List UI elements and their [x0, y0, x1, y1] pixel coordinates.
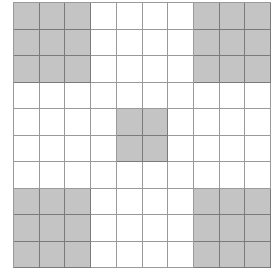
grid-cell: [168, 109, 194, 136]
grid-cell: [14, 83, 40, 110]
grid-cell: [91, 83, 117, 110]
grid-cell: [14, 109, 40, 136]
shaded-cell-top-left: [40, 3, 66, 30]
grid-cell: [194, 136, 220, 163]
shaded-cell-top-left: [40, 30, 66, 57]
grid-diagram: [13, 2, 271, 268]
grid-cell: [194, 109, 220, 136]
shaded-cell-bottom-left: [65, 215, 91, 242]
grid-cell: [143, 56, 169, 83]
grid-cell: [40, 83, 66, 110]
grid-cell: [65, 162, 91, 189]
grid-cell: [143, 215, 169, 242]
shaded-cell-top-right: [245, 3, 271, 30]
shaded-cell-top-right: [245, 56, 271, 83]
grid-cell: [117, 30, 143, 57]
grid-cell: [168, 215, 194, 242]
shaded-cell-top-left: [65, 3, 91, 30]
shaded-cell-bottom-right: [245, 242, 271, 269]
shaded-cell-top-left: [14, 56, 40, 83]
shaded-cell-top-left: [14, 30, 40, 57]
grid-cell: [14, 162, 40, 189]
shaded-cell-bottom-right: [194, 242, 220, 269]
grid-cell: [220, 136, 246, 163]
grid-cell: [143, 242, 169, 269]
shaded-cell-top-right: [245, 30, 271, 57]
grid-cell: [65, 83, 91, 110]
grid-cell: [220, 83, 246, 110]
grid-cell: [117, 56, 143, 83]
shaded-cell-bottom-right: [194, 215, 220, 242]
grid-cell: [143, 83, 169, 110]
grid-cell: [91, 30, 117, 57]
grid-cell: [143, 162, 169, 189]
grid-cell: [245, 109, 271, 136]
grid-cell: [168, 136, 194, 163]
grid-cell: [168, 189, 194, 216]
grid-cell: [91, 162, 117, 189]
shaded-cell-bottom-left: [40, 242, 66, 269]
shaded-cell-bottom-right: [194, 189, 220, 216]
grid-cell: [168, 242, 194, 269]
grid-cell: [65, 136, 91, 163]
grid-cell: [117, 162, 143, 189]
shaded-cell-top-left: [14, 3, 40, 30]
shaded-cell-top-left: [65, 56, 91, 83]
grid-cell: [143, 189, 169, 216]
grid-cell: [40, 136, 66, 163]
grid-cell: [117, 83, 143, 110]
shaded-cell-top-right: [220, 3, 246, 30]
shaded-cell-center: [117, 109, 143, 136]
grid-cell: [117, 242, 143, 269]
shaded-cell-bottom-left: [14, 189, 40, 216]
shaded-cell-top-right: [194, 30, 220, 57]
grid-cell: [168, 56, 194, 83]
shaded-cell-center: [143, 109, 169, 136]
grid-cell: [194, 162, 220, 189]
shaded-cell-top-left: [65, 30, 91, 57]
shaded-cell-bottom-right: [220, 189, 246, 216]
shaded-cell-bottom-right: [245, 215, 271, 242]
grid-cell: [91, 242, 117, 269]
grid-cell: [14, 136, 40, 163]
grid-cell: [91, 3, 117, 30]
grid-cell: [40, 162, 66, 189]
shaded-cell-bottom-left: [14, 242, 40, 269]
grid-cell: [220, 162, 246, 189]
grid-cell: [168, 3, 194, 30]
shaded-cell-center: [143, 136, 169, 163]
grid-cell: [168, 162, 194, 189]
grid-cell: [117, 189, 143, 216]
grid-cell: [245, 83, 271, 110]
shaded-cell-top-left: [40, 56, 66, 83]
shaded-cell-bottom-right: [220, 215, 246, 242]
grid-cell: [143, 3, 169, 30]
grid-cell: [65, 109, 91, 136]
grid-cell: [91, 56, 117, 83]
grid-cell: [117, 3, 143, 30]
grid-cell: [245, 162, 271, 189]
shaded-cell-bottom-left: [40, 189, 66, 216]
shaded-cell-bottom-left: [65, 189, 91, 216]
grid-cell: [168, 30, 194, 57]
shaded-cell-top-right: [220, 56, 246, 83]
grid-cell: [91, 215, 117, 242]
grid-cell: [194, 83, 220, 110]
shaded-cell-top-right: [194, 56, 220, 83]
grid-cell: [91, 136, 117, 163]
shaded-cell-bottom-left: [40, 215, 66, 242]
grid-cell: [91, 189, 117, 216]
shaded-cell-bottom-left: [65, 242, 91, 269]
shaded-cell-top-right: [220, 30, 246, 57]
shaded-cell-center: [117, 136, 143, 163]
shaded-cell-bottom-left: [14, 215, 40, 242]
shaded-cell-bottom-right: [220, 242, 246, 269]
shaded-cell-bottom-right: [245, 189, 271, 216]
grid-cell: [143, 30, 169, 57]
grid-cell: [245, 136, 271, 163]
grid-cell: [91, 109, 117, 136]
grid-cell: [168, 83, 194, 110]
grid-cell: [117, 215, 143, 242]
grid-cell: [220, 109, 246, 136]
grid-cell: [40, 109, 66, 136]
